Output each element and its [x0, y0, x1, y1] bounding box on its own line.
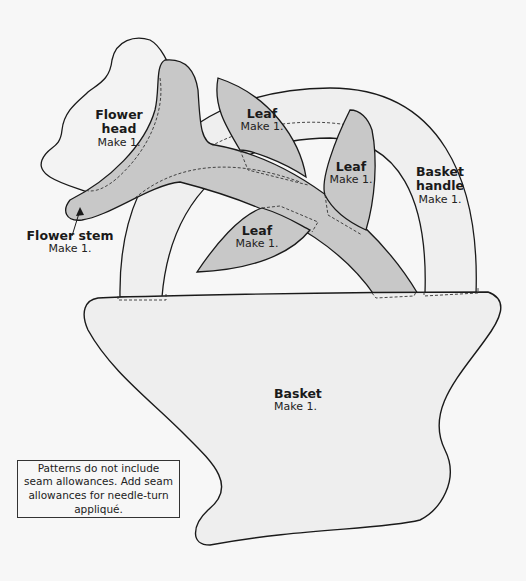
basket-make: Make 1.: [274, 401, 324, 414]
basket-handle-title-line1: Basket: [405, 165, 475, 179]
flower-stem-label: Flower stem Make 1.: [20, 229, 120, 256]
leaf-lower-make: Make 1.: [227, 238, 287, 251]
leaf-lower-title: Leaf: [227, 224, 287, 238]
flower-head-title-line2: head: [84, 122, 154, 136]
flower-stem-make: Make 1.: [20, 243, 120, 256]
leaf-lower-label: Leaf Make 1.: [227, 224, 287, 251]
leaf-right-make: Make 1.: [321, 174, 381, 187]
leaf-top-title: Leaf: [232, 107, 292, 121]
leaf-right-title: Leaf: [321, 160, 381, 174]
basket-handle-label: Basket handle Make 1.: [405, 165, 475, 206]
flower-stem-title: Flower stem: [20, 229, 120, 243]
leaf-right-label: Leaf Make 1.: [321, 160, 381, 187]
basket-handle-make: Make 1.: [405, 194, 475, 207]
leaf-top-label: Leaf Make 1.: [232, 107, 292, 134]
flower-head-label: Flower head Make 1.: [84, 108, 154, 149]
basket-title: Basket: [274, 387, 324, 401]
flower-head-title-line1: Flower: [84, 108, 154, 122]
basket-label: Basket Make 1.: [274, 387, 324, 414]
basket-handle-title-line2: handle: [405, 179, 475, 193]
seam-allowance-note: Patterns do not include seam allowances.…: [17, 460, 180, 518]
leaf-top-make: Make 1.: [232, 121, 292, 134]
flower-head-make: Make 1.: [84, 137, 154, 150]
